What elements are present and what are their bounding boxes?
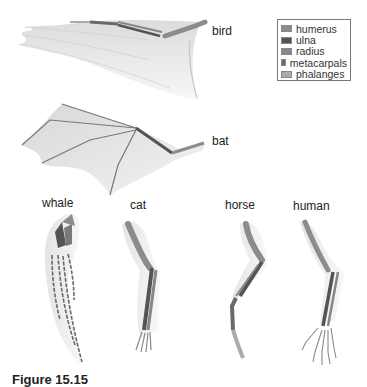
legend-item-phalanges: phalanges (281, 69, 347, 80)
horse-leg (232, 222, 268, 358)
legend-label: phalanges (296, 68, 344, 80)
label-bat: bat (212, 134, 229, 148)
swatch-metacarpals (281, 59, 286, 66)
legend-item-radius: radius (281, 46, 347, 57)
legend-label: metacarpals (290, 57, 347, 69)
whale-flipper (45, 214, 83, 365)
swatch-humerus (281, 25, 292, 32)
legend-label: ulna (296, 34, 316, 46)
legend-item-ulna: ulna (281, 34, 347, 45)
human-arm (300, 221, 345, 365)
bird-wing (18, 20, 205, 100)
legend-label: humerus (296, 23, 337, 35)
swatch-radius (281, 48, 292, 55)
legend-item-metacarpals: metacarpals (281, 57, 347, 68)
label-whale: whale (42, 196, 73, 210)
cat-leg (122, 221, 160, 352)
figure-caption: Figure 15.15 (12, 372, 88, 387)
label-cat: cat (130, 198, 146, 212)
legend-item-humerus: humerus (281, 23, 347, 34)
label-bird: bird (212, 24, 232, 38)
swatch-ulna (281, 37, 292, 44)
label-human: human (293, 199, 330, 213)
label-horse: horse (225, 198, 255, 212)
swatch-phalanges (281, 71, 292, 78)
legend: humerus ulna radius metacarpals phalange… (277, 19, 351, 81)
legend-label: radius (296, 45, 325, 57)
bat-wing (22, 104, 205, 195)
